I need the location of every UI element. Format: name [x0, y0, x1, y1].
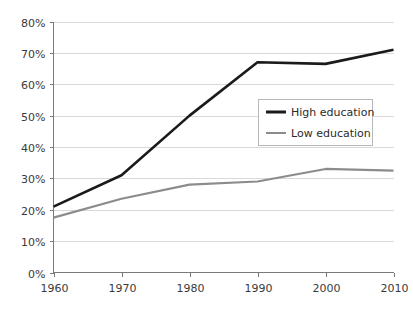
legend-label-high-education: High education — [291, 106, 374, 119]
line-chart: 0%10%20%30%40%50%60%70%80% 1960197019801… — [0, 0, 413, 309]
legend-label-low-education: Low education — [291, 127, 371, 140]
y-tick-label-40%: 40% — [21, 142, 45, 155]
y-tick-label-80%: 80% — [21, 17, 45, 30]
y-tick-label-0%: 0% — [28, 268, 45, 281]
y-tick-label-10%: 10% — [21, 236, 45, 249]
y-axis-tick-labels: 0%10%20%30%40%50%60%70%80% — [21, 17, 45, 281]
x-tick-label-2010: 2010 — [381, 282, 409, 295]
x-tick-label-1970: 1970 — [109, 282, 137, 295]
y-tick-label-20%: 20% — [21, 205, 45, 218]
x-tick-label-1960: 1960 — [41, 282, 69, 295]
y-tick-label-30%: 30% — [21, 173, 45, 186]
legend: High education Low education — [259, 100, 375, 146]
y-tick-label-60%: 60% — [21, 79, 45, 92]
x-tick-label-1980: 1980 — [177, 282, 205, 295]
y-tick-label-50%: 50% — [21, 111, 45, 124]
y-tick-label-70%: 70% — [21, 48, 45, 61]
chart-canvas: 0%10%20%30%40%50%60%70%80% 1960197019801… — [0, 0, 413, 309]
x-tick-label-1990: 1990 — [245, 282, 273, 295]
x-tick-label-2000: 2000 — [313, 282, 341, 295]
chart-background — [0, 0, 413, 309]
